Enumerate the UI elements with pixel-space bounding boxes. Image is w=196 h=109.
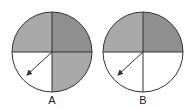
spinner-b-label: B xyxy=(139,95,146,106)
spinner-b-quadrant-top-right xyxy=(143,12,183,52)
spinner-b-quadrant-bottom-right xyxy=(143,52,183,92)
spinner-diagrams xyxy=(0,0,196,109)
spinner-a-quadrant-top-left xyxy=(12,12,52,52)
spinner-b-quadrant-top-left xyxy=(103,12,143,52)
spinner-a-quadrant-bottom-right xyxy=(52,52,92,92)
spinner-a xyxy=(12,12,92,92)
spinner-b xyxy=(103,12,183,92)
spinner-a-label: A xyxy=(48,95,55,106)
spinner-a-quadrant-top-right xyxy=(52,12,92,52)
